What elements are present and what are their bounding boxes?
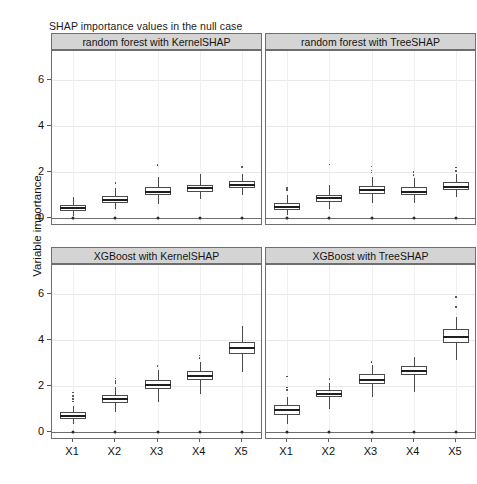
y-tick-label: 0 bbox=[24, 211, 44, 223]
boxplot-outlier bbox=[115, 382, 117, 384]
boxplot-median bbox=[145, 191, 171, 193]
boxplot-outlier bbox=[329, 378, 331, 380]
boxplot-median bbox=[229, 184, 255, 186]
boxplot-median bbox=[401, 191, 427, 193]
x-axis-point bbox=[454, 217, 457, 220]
x-tick-label: X5 bbox=[448, 445, 461, 457]
x-axis-point bbox=[114, 217, 117, 220]
boxplot-whisker-cap bbox=[408, 203, 420, 204]
boxplot-whisker-cap bbox=[194, 199, 206, 200]
boxplot-whisker-cap bbox=[281, 397, 293, 398]
x-tick-mark bbox=[72, 439, 73, 442]
boxplot-whisker-cap bbox=[408, 178, 420, 179]
x-tick-label: X3 bbox=[364, 445, 377, 457]
boxplot-whisker-cap bbox=[194, 394, 206, 395]
y-tick-mark bbox=[47, 217, 51, 218]
boxplot-median bbox=[359, 379, 385, 381]
x-tick-label: X1 bbox=[65, 445, 78, 457]
x-tick-mark bbox=[241, 439, 242, 442]
x-axis-point bbox=[114, 431, 117, 434]
y-tick-mark bbox=[47, 431, 51, 432]
boxplot-outlier bbox=[286, 187, 288, 189]
gridline-horizontal bbox=[266, 126, 475, 127]
boxplot-whisker-cap bbox=[67, 406, 79, 407]
x-tick-label: X4 bbox=[406, 445, 419, 457]
y-tick-label: 2 bbox=[24, 165, 44, 177]
boxplot-whisker-cap bbox=[323, 409, 335, 410]
boxplot-median bbox=[316, 393, 342, 395]
x-axis-point bbox=[240, 217, 243, 220]
boxplot-median bbox=[102, 199, 128, 201]
y-tick-mark bbox=[47, 385, 51, 386]
facet-panel: XGBoost with KernelSHAP bbox=[51, 247, 262, 439]
y-tick-mark bbox=[47, 339, 51, 340]
x-tick-mark bbox=[286, 439, 287, 442]
boxplot-median bbox=[443, 186, 469, 188]
y-tick-label: 6 bbox=[24, 73, 44, 85]
x-tick-mark bbox=[455, 439, 456, 442]
x-axis-point bbox=[328, 217, 331, 220]
plot-area bbox=[265, 50, 476, 225]
boxplot-whisker-cap bbox=[450, 197, 462, 198]
boxplot-outlier bbox=[72, 392, 74, 394]
gridline-vertical bbox=[414, 265, 415, 438]
boxplot-median bbox=[187, 375, 213, 377]
boxplot-median bbox=[60, 415, 86, 417]
boxplot-median bbox=[102, 398, 128, 400]
x-tick-mark bbox=[328, 439, 329, 442]
boxplot-whisker-cap bbox=[152, 204, 164, 205]
x-tick-label: X2 bbox=[322, 445, 335, 457]
boxplot-whisker-cap bbox=[366, 177, 378, 178]
boxplot-median bbox=[274, 409, 300, 411]
shap-boxplot-figure: SHAP importance values in the null case … bbox=[0, 0, 477, 484]
chart-title: SHAP importance values in the null case bbox=[49, 20, 242, 32]
x-axis-point bbox=[156, 217, 159, 220]
gridline-horizontal bbox=[52, 126, 261, 127]
x-axis-point bbox=[286, 217, 289, 220]
boxplot-whisker-cap bbox=[366, 203, 378, 204]
plot-area bbox=[51, 50, 262, 225]
x-axis-point bbox=[454, 431, 457, 434]
x-axis-point bbox=[72, 431, 75, 434]
y-tick-mark bbox=[47, 293, 51, 294]
x-tick-label: X2 bbox=[108, 445, 121, 457]
x-axis-point bbox=[198, 431, 201, 434]
boxplot-whisker-cap bbox=[67, 424, 79, 425]
x-axis-point bbox=[198, 217, 201, 220]
gridline-vertical bbox=[158, 265, 159, 438]
plot-area bbox=[51, 264, 262, 439]
boxplot-median bbox=[316, 197, 342, 199]
gridline-vertical bbox=[456, 51, 457, 224]
boxplot-whisker-cap bbox=[194, 362, 206, 363]
y-tick-mark bbox=[47, 171, 51, 172]
boxplot-median bbox=[60, 207, 86, 209]
gridline-vertical bbox=[372, 265, 373, 438]
facet-panel: XGBoost with TreeSHAP bbox=[265, 247, 476, 439]
boxplot-whisker-cap bbox=[152, 402, 164, 403]
facet-strip-label: XGBoost with KernelSHAP bbox=[51, 247, 262, 264]
boxplot-whisker-cap bbox=[236, 174, 248, 175]
y-tick-label: 6 bbox=[24, 287, 44, 299]
boxplot-whisker-cap bbox=[109, 209, 121, 210]
gridline-vertical bbox=[200, 265, 201, 438]
boxplot-median bbox=[187, 187, 213, 189]
boxplot-whisker-cap bbox=[194, 174, 206, 175]
y-tick-mark bbox=[47, 125, 51, 126]
x-tick-mark bbox=[413, 439, 414, 442]
boxplot-outlier bbox=[455, 170, 457, 172]
boxplot-whisker-cap bbox=[450, 360, 462, 361]
boxplot-whisker-cap bbox=[281, 195, 293, 196]
x-axis-point bbox=[328, 431, 331, 434]
boxplot-whisker-cap bbox=[450, 174, 462, 175]
x-tick-label: X5 bbox=[234, 445, 247, 457]
boxplot-outlier bbox=[115, 182, 117, 184]
boxplot-whisker-cap bbox=[67, 197, 79, 198]
facet-panel: random forest with TreeSHAP bbox=[265, 33, 476, 225]
x-tick-label: X3 bbox=[150, 445, 163, 457]
x-axis-point bbox=[412, 431, 415, 434]
boxplot-whisker-cap bbox=[236, 372, 248, 373]
boxplot-outlier bbox=[72, 395, 74, 397]
boxplot-median bbox=[443, 336, 469, 338]
x-axis-point bbox=[370, 217, 373, 220]
facet-strip-label: random forest with KernelSHAP bbox=[51, 33, 262, 50]
